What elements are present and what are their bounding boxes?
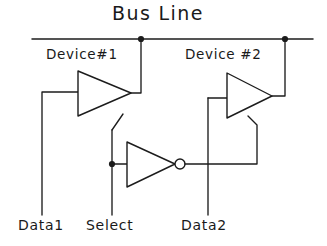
device1-enable-wire bbox=[112, 114, 123, 130]
bus-schematic-drawing bbox=[0, 0, 327, 246]
device2-label: Device #2 bbox=[185, 48, 262, 62]
device1-label: Device#1 bbox=[46, 48, 118, 62]
select-label: Select bbox=[86, 218, 133, 232]
data2-label: Data2 bbox=[181, 218, 227, 232]
select-junction-dot bbox=[109, 161, 115, 167]
device1-output-wire bbox=[131, 39, 141, 93]
device2-enable-wire bbox=[185, 116, 257, 164]
inverter-bubble-icon bbox=[175, 159, 185, 169]
select-inverter-body bbox=[127, 142, 175, 187]
bus-junction-dot-device2 bbox=[282, 36, 288, 42]
bus-junction-dot-device1 bbox=[138, 36, 144, 42]
buffer-device1-body bbox=[78, 71, 131, 116]
data1-input-wire bbox=[42, 92, 78, 215]
data1-label: Data1 bbox=[18, 218, 64, 232]
diagram-title: Bus Line bbox=[112, 4, 204, 23]
buffer-device2-body bbox=[227, 73, 272, 118]
device2-output-wire bbox=[272, 39, 285, 96]
schematic-canvas: Bus Line Device#1 Device #2 Data1 Select… bbox=[0, 0, 327, 246]
